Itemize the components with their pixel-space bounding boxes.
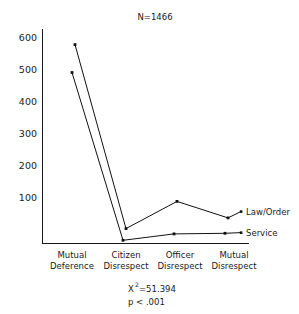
y-tick-label: 600 (19, 32, 37, 43)
data-point-marker (122, 239, 125, 242)
y-tick-label: 100 (19, 192, 37, 203)
series-line-service (72, 73, 225, 241)
x-tick-label-line1: Mutual (57, 250, 86, 260)
chart-axes (43, 29, 250, 244)
x-tick-label-line2: Disrespect (212, 261, 258, 271)
chart-figure: 600 500 400 300 200 100 Law/Order Servic… (0, 0, 299, 314)
sample-size-annotation: N=1466 (137, 12, 172, 22)
y-tick-label: 500 (19, 64, 37, 75)
data-point-marker (74, 43, 77, 46)
x-tick-label-line2: Disrespect (104, 261, 150, 271)
y-tick-label: 200 (19, 160, 37, 171)
series-line-law-order (75, 45, 228, 229)
legend-leader-law-order (228, 212, 241, 218)
legend-marker-service (240, 231, 243, 234)
x-tick-label-line1: Officer (166, 250, 195, 260)
legend-label-law-order: Law/Order (246, 207, 290, 217)
x-tick-label-line1: Mutual (219, 250, 248, 260)
legend-label-service: Service (246, 228, 277, 238)
legend-marker-law-order (240, 210, 243, 213)
chi-square-annotation: X 2 =51.394 (128, 281, 176, 294)
data-point-marker (125, 227, 128, 230)
data-point-marker (173, 233, 176, 236)
chi-square-value: =51.394 (139, 284, 176, 294)
x-tick-label-line2: Deference (50, 261, 94, 271)
p-value-annotation: p < .001 (128, 297, 165, 307)
chi-square-symbol: X (128, 284, 134, 294)
data-point-marker (176, 200, 179, 203)
x-tick-label-line2: Disrespect (158, 261, 204, 271)
data-point-marker (71, 71, 74, 74)
y-tick-label: 400 (19, 96, 37, 107)
x-tick-label-line1: Citizen (111, 250, 140, 260)
y-tick-label: 300 (19, 128, 37, 139)
legend-leader-service (225, 233, 241, 234)
line-chart-canvas: 600 500 400 300 200 100 Law/Order Servic… (0, 0, 299, 314)
